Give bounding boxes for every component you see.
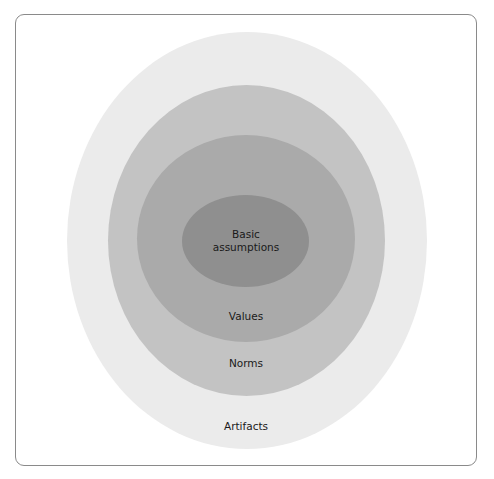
basic-assumptions-label-line-2: assumptions <box>146 241 346 254</box>
values-label: Values <box>146 310 346 323</box>
norms-label: Norms <box>146 357 346 370</box>
artifacts-label: Artifacts <box>146 420 346 433</box>
basic-assumptions-label: Basic assumptions <box>146 228 346 254</box>
basic-assumptions-label-line-1: Basic <box>146 228 346 241</box>
